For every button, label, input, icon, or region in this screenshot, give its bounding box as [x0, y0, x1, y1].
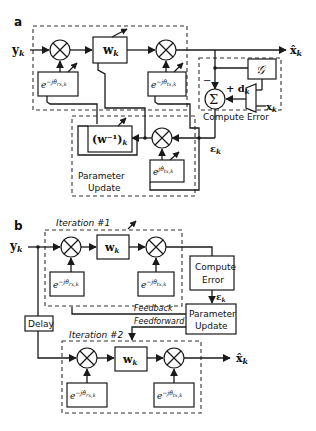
feedback-label: Feedback [134, 304, 173, 313]
output-xhat-label: x̂k [236, 352, 249, 366]
mixer-rx-icon-iter2 [77, 348, 97, 368]
error-label: εk [210, 143, 221, 156]
iteration-1-label: Iteration #1 [56, 218, 110, 228]
summation-icon: Σ [205, 89, 225, 109]
panel-a-label: a [14, 15, 22, 29]
panel-a: a Compute Error Parameter Update yk wk [11, 15, 303, 196]
svg-text:+ dk: + dk [226, 83, 250, 96]
svg-text:Compute: Compute [195, 262, 237, 272]
panel-b: b Iteration #1 yk wk e−jθ̂rx,k e−jθ̂tx,k [9, 218, 249, 413]
parameter-update-label-1: Parameter [78, 171, 125, 181]
svg-text:(w⁻¹)k: (w⁻¹)k [92, 133, 128, 147]
svg-text:Parameter: Parameter [189, 309, 236, 319]
svg-text:Σ: Σ [209, 92, 218, 107]
svg-text:−: − [203, 75, 211, 86]
svg-text:Error: Error [202, 275, 224, 285]
panel-b-label: b [14, 219, 23, 233]
mixer-rx-icon [61, 237, 81, 257]
parameter-update-label-2: Update [88, 183, 121, 193]
diagram-canvas: a Compute Error Parameter Update yk wk [0, 0, 316, 431]
output-xhat-label: x̂k [290, 44, 303, 58]
adaptive-arrow-icon [128, 221, 136, 229]
mixer-update-icon [152, 128, 172, 148]
iteration-2-label: Iteration #2 [69, 330, 124, 340]
feedforward-label: Feedforward [134, 317, 185, 326]
error-label: εk [216, 292, 226, 303]
input-y-label: yk [11, 43, 25, 58]
mixer-tx-icon [146, 237, 166, 257]
svg-text:Delay: Delay [28, 319, 54, 329]
mixer-rx-icon [50, 40, 70, 60]
mixer-tx-icon-iter2 [164, 348, 184, 368]
compute-error-label: Compute Error [203, 112, 269, 122]
mixer-tx-icon [156, 40, 176, 60]
input-y-label: yk [9, 239, 23, 254]
adaptive-arrow-icon [112, 29, 127, 37]
svg-text:Update: Update [195, 321, 228, 331]
